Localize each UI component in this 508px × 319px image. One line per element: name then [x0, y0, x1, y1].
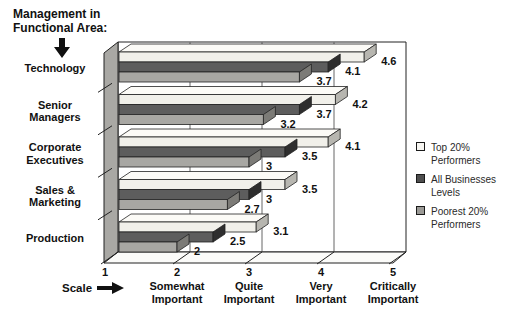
x-tick-number-4: 4	[291, 266, 351, 278]
bar-s0-c0	[119, 52, 364, 62]
value-label-s0-c2: 4.1	[345, 140, 360, 152]
value-label-s0-c0: 4.6	[381, 55, 396, 67]
bar-s1-c0	[119, 62, 328, 72]
legend-item-0: Top 20% Performers	[416, 141, 496, 167]
bar-s2-c2	[119, 157, 249, 167]
bar-s2-c3	[119, 200, 227, 210]
value-label-s0-c3: 3.5	[302, 183, 317, 195]
importance-bar-chart: Management in Functional Area: 4.64.13.7…	[0, 0, 508, 319]
x-tick-label-5: Critically Important	[351, 280, 435, 306]
legend-label-0: Top 20% Performers	[431, 141, 480, 167]
value-label-s2-c4: 2	[194, 245, 200, 257]
scale-label: Scale	[62, 282, 92, 294]
value-label-s1-c0: 4.1	[345, 65, 360, 77]
value-label-s2-c2: 3	[266, 160, 272, 172]
bar-s1-c4	[119, 232, 213, 242]
category-label-4: Production	[2, 232, 108, 245]
value-label-s1-c4: 2.5	[230, 235, 245, 247]
legend-swatch-1	[416, 174, 425, 183]
legend-label-1: All Businesses Levels	[431, 173, 496, 199]
bar-s2-c1	[119, 115, 263, 125]
category-label-2: Corporate Executives	[2, 141, 108, 166]
value-label-s0-c4: 3.1	[273, 225, 288, 237]
bar-s2-c4	[119, 242, 177, 252]
scale-label-row: Scale	[62, 282, 125, 294]
value-label-s1-c2: 3.5	[302, 150, 317, 162]
x-tick-number-1: 1	[75, 266, 135, 278]
value-label-s2-c0: 3.7	[316, 75, 331, 87]
value-label-s1-c1: 3.7	[316, 108, 331, 120]
bar-top-s0-c0	[119, 44, 376, 52]
category-label-3: Sales & Marketing	[2, 183, 108, 208]
bar-s2-c0	[119, 72, 299, 82]
category-label-0: Technology	[2, 62, 108, 75]
bar-top-s0-c4	[119, 214, 268, 222]
value-label-s1-c3: 3	[266, 193, 272, 205]
bar-s0-c4	[119, 222, 256, 232]
x-tick-number-3: 3	[219, 266, 279, 278]
legend-swatch-2	[416, 206, 425, 215]
value-label-s2-c3: 2.7	[244, 203, 259, 215]
legend-item-1: All Businesses Levels	[416, 173, 496, 199]
legend-item-2: Poorest 20% Performers	[416, 205, 496, 231]
legend-swatch-0	[416, 142, 425, 151]
bar-top-s0-c2	[119, 129, 340, 137]
x-tick-number-2: 2	[147, 266, 207, 278]
legend-label-2: Poorest 20% Performers	[431, 205, 488, 231]
bar-top-s0-c3	[119, 172, 297, 180]
value-label-s2-c1: 3.2	[280, 118, 295, 130]
category-label-1: Senior Managers	[2, 98, 108, 123]
value-label-s0-c1: 4.2	[352, 98, 367, 110]
right-arrow-icon	[97, 282, 125, 294]
bar-top-s0-c1	[119, 87, 347, 95]
legend: Top 20% PerformersAll Businesses LevelsP…	[416, 141, 496, 231]
x-tick-number-5: 5	[363, 266, 423, 278]
